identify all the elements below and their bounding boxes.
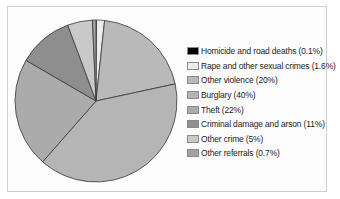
legend-label: Burglary (40%) xyxy=(201,90,255,100)
legend-swatch xyxy=(187,76,199,84)
legend-label: Other violence (20%) xyxy=(201,75,278,85)
legend-label: Criminal damage and arson (11%) xyxy=(201,119,325,129)
legend-label: Other referrals (0.7%) xyxy=(201,148,280,158)
legend-label: Rape and other sexual crimes (1.6%) xyxy=(201,61,336,71)
legend-label: Homicide and road deaths (0.1%) xyxy=(201,46,323,56)
legend-swatch xyxy=(187,91,199,99)
legend-swatch xyxy=(187,62,199,70)
legend-item: Homicide and road deaths (0.1%) xyxy=(187,44,340,59)
legend-item: Theft (22%) xyxy=(187,102,340,117)
legend-item: Rape and other sexual crimes (1.6%) xyxy=(187,59,340,74)
legend-swatch xyxy=(187,120,199,128)
legend-swatch xyxy=(187,47,199,55)
legend-item: Criminal damage and arson (11%) xyxy=(187,117,340,132)
legend-swatch xyxy=(187,149,199,157)
legend-swatch xyxy=(187,135,199,143)
legend-swatch xyxy=(187,106,199,114)
legend-item: Other crime (5%) xyxy=(187,132,340,147)
legend-item: Other violence (20%) xyxy=(187,73,340,88)
chart-legend: Homicide and road deaths (0.1%) Rape and… xyxy=(187,44,340,161)
legend-label: Other crime (5%) xyxy=(201,134,263,144)
legend-label: Theft (22%) xyxy=(201,105,244,115)
legend-item: Burglary (40%) xyxy=(187,88,340,103)
legend-item: Other referrals (0.7%) xyxy=(187,146,340,161)
